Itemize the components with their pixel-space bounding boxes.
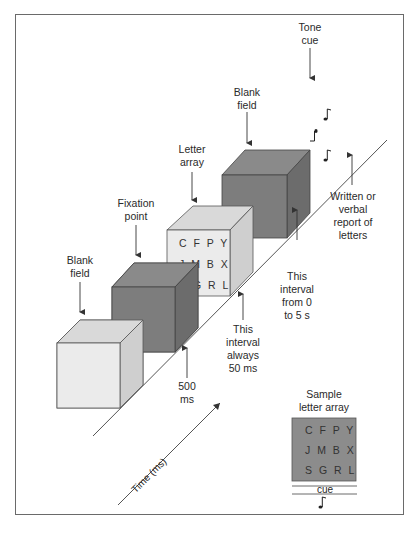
- sample-row-2: J M B X: [305, 444, 356, 456]
- label-tone-cue: Tonecue: [292, 21, 328, 47]
- label-blank-field-2: Blankfield: [229, 86, 265, 112]
- label-interval-50ms: Thisinterval always50 ms: [222, 323, 264, 375]
- label-report: Written orverbal report ofletters: [326, 190, 380, 242]
- letter-array-row-3: S G R L: [179, 279, 230, 291]
- label-letter-array: Letterarray: [174, 143, 210, 169]
- blank-field-1-cube: [57, 320, 143, 408]
- sample-row-3: S G R L: [305, 464, 356, 476]
- sample-row-1: C F P Y: [305, 424, 355, 436]
- label-500ms: 500ms: [172, 380, 202, 406]
- music-note-icon: [324, 150, 332, 162]
- sample-cue-label: cue: [310, 483, 340, 496]
- label-blank-field-1: Blankfield: [62, 254, 98, 280]
- sample-title: Sampleletter array: [290, 388, 358, 414]
- music-note-icon: [310, 129, 318, 141]
- label-interval-0-5s: Thisinterval from 0to 5 s: [276, 270, 318, 322]
- letter-array-row-1: C F P Y: [179, 237, 229, 249]
- label-fixation-point: Fixationpoint: [112, 197, 160, 223]
- letter-array-row-2: J M B X: [179, 258, 230, 270]
- music-note-icon: [324, 109, 332, 121]
- music-note-icon: [319, 497, 327, 509]
